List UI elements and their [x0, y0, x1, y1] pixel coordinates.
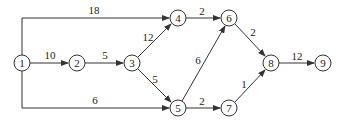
edge-label-5-6: 6: [195, 54, 201, 66]
node-7: 7: [221, 100, 237, 116]
edge-label-3-5: 5: [152, 73, 158, 85]
svg-text:5: 5: [175, 102, 181, 114]
svg-text:6: 6: [226, 12, 232, 24]
svg-text:7: 7: [226, 102, 232, 114]
svg-text:9: 9: [320, 57, 326, 69]
edge-label-3-4: 12: [143, 31, 154, 43]
edge-label-1-4: 18: [89, 4, 101, 16]
edge-label-1-5: 6: [92, 94, 98, 106]
svg-text:4: 4: [175, 12, 181, 24]
node-1: 1: [14, 55, 30, 71]
edge-label-6-8: 2: [250, 26, 256, 38]
node-8: 8: [263, 55, 279, 71]
edge-label-8-9: 12: [292, 50, 303, 62]
edge-label-2-3: 5: [102, 49, 108, 61]
node-4: 4: [170, 10, 186, 26]
svg-text:3: 3: [129, 57, 135, 69]
edge-label-1-2: 10: [45, 49, 57, 61]
svg-text:1: 1: [19, 57, 25, 69]
edge-label-7-8: 1: [241, 78, 247, 90]
node-2: 2: [69, 55, 85, 71]
edge-7-8: [235, 70, 265, 102]
node-9: 9: [315, 55, 331, 71]
edge-label-5-7: 2: [199, 95, 205, 107]
edge-5-6: [182, 26, 225, 101]
node-5: 5: [170, 100, 186, 116]
svg-text:2: 2: [74, 57, 80, 69]
edge-label-4-6: 2: [199, 5, 205, 17]
node-3: 3: [124, 55, 140, 71]
node-6: 6: [221, 10, 237, 26]
svg-text:8: 8: [268, 57, 274, 69]
network-diagram: 18 10 6 5 12 5 2 6 2 2 1 12 1 2 3 4 5 6 …: [0, 0, 347, 129]
